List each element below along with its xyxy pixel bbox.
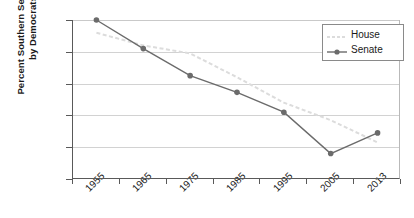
x-tick-mark — [306, 179, 307, 184]
data-point — [375, 130, 381, 136]
data-point — [281, 109, 287, 115]
legend-label-senate: Senate — [351, 44, 383, 55]
x-tick-mark — [259, 179, 260, 184]
chart-container: Percent Southern Seats Held by Democrats… — [0, 0, 414, 218]
x-tick-mark — [72, 179, 73, 184]
data-point — [328, 151, 334, 157]
x-tick-mark — [119, 179, 120, 184]
data-point — [234, 90, 240, 96]
y-axis-title: Percent Southern Seats Held by Democrats — [15, 0, 39, 117]
data-point — [94, 17, 100, 23]
chart-legend: House Senate — [322, 24, 404, 61]
data-point — [187, 73, 193, 79]
data-point — [140, 46, 146, 52]
legend-item-house[interactable]: House — [323, 27, 403, 42]
x-tick-mark — [166, 179, 167, 184]
x-tick-mark — [353, 179, 354, 184]
x-tick-mark — [400, 179, 401, 184]
legend-label-house: House — [351, 29, 380, 40]
legend-swatch-house — [326, 29, 348, 41]
x-tick-mark — [213, 179, 214, 184]
legend-swatch-senate — [326, 44, 348, 56]
legend-item-senate[interactable]: Senate — [323, 42, 403, 57]
